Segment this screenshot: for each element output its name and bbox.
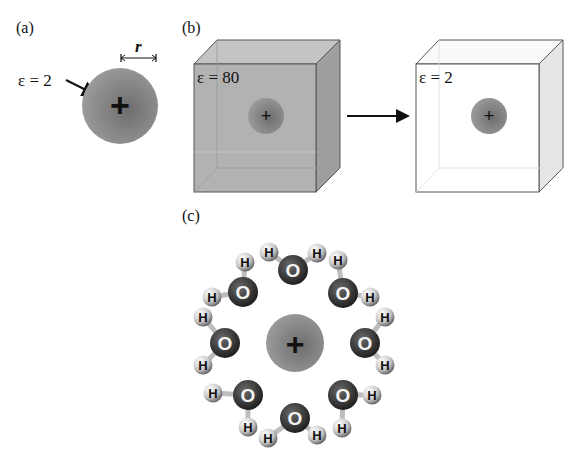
svg-text:H: H bbox=[312, 428, 321, 443]
panel-a-epsilon-label: ε = 2 bbox=[18, 71, 52, 90]
hydrogen-atom-icon: H bbox=[236, 253, 255, 272]
hydrogen-atom-icon: H bbox=[194, 356, 213, 375]
svg-text:H: H bbox=[243, 420, 252, 435]
solvent-box: ε = 80 + bbox=[194, 40, 340, 192]
oxygen-atom-icon: O bbox=[210, 328, 240, 358]
oxygen-atom-icon: O bbox=[278, 255, 308, 285]
hydrogen-atom-icon: H bbox=[376, 308, 395, 327]
panel-c: (c) + H H H H H H H H H H H H bbox=[182, 207, 395, 448]
oxygen-atom-icon: O bbox=[280, 403, 310, 433]
hydrogen-atom-icon: H bbox=[308, 426, 327, 445]
svg-text:O: O bbox=[288, 408, 303, 429]
hydrogen-atom-icon: H bbox=[204, 384, 223, 403]
vacuum-epsilon-label: ε = 2 bbox=[419, 68, 453, 87]
oxygen-atom-icon: O bbox=[228, 277, 258, 307]
svg-text:H: H bbox=[198, 310, 207, 325]
hydrogen-atom-icon: H bbox=[333, 419, 352, 438]
oxygen-atom-icon: O bbox=[350, 328, 380, 358]
hydrogen-atom-icon: H bbox=[361, 288, 380, 307]
hydrogen-atom-icon: H bbox=[203, 288, 222, 307]
panel-a-label: (a) bbox=[16, 19, 34, 37]
central-ion-charge: + bbox=[286, 326, 305, 362]
solvated-ion-charge: + bbox=[261, 106, 272, 126]
oxygen-atom-icon: O bbox=[233, 380, 263, 410]
panel-b-label: (b) bbox=[182, 19, 201, 37]
figure-canvas: (a) ε = 2 r + (b) ε = 80 + bbox=[0, 0, 583, 462]
oxygen-atom-icon: O bbox=[328, 380, 358, 410]
svg-text:H: H bbox=[380, 310, 389, 325]
panel-c-label: (c) bbox=[182, 207, 200, 225]
svg-text:H: H bbox=[207, 290, 216, 305]
svg-text:H: H bbox=[367, 388, 376, 403]
svg-text:H: H bbox=[263, 431, 272, 446]
panel-b: (b) ε = 80 + ε = 2 + bbox=[182, 19, 563, 192]
svg-text:O: O bbox=[358, 333, 373, 354]
vacuum-box: ε = 2 + bbox=[416, 40, 563, 192]
solvent-epsilon-label: ε = 80 bbox=[197, 68, 239, 87]
hydrogen-atom-icon: H bbox=[308, 244, 327, 263]
svg-text:O: O bbox=[241, 385, 256, 406]
svg-text:H: H bbox=[337, 421, 346, 436]
svg-text:H: H bbox=[365, 290, 374, 305]
svg-text:H: H bbox=[264, 245, 273, 260]
svg-text:O: O bbox=[336, 283, 351, 304]
hydrogen-atom-icon: H bbox=[329, 251, 348, 270]
hydrogen-atom-icon: H bbox=[376, 356, 395, 375]
hydrogen-atom-icon: H bbox=[239, 418, 258, 437]
panel-a: (a) ε = 2 r + bbox=[16, 19, 158, 144]
svg-text:H: H bbox=[333, 253, 342, 268]
transfer-arrow-icon bbox=[396, 109, 410, 123]
hydrogen-atom-icon: H bbox=[260, 243, 279, 262]
hydrogen-atom-icon: H bbox=[259, 429, 278, 448]
hydrogen-atom-icon: H bbox=[363, 386, 382, 405]
svg-text:O: O bbox=[236, 282, 251, 303]
svg-text:O: O bbox=[286, 260, 301, 281]
desolvated-ion-charge: + bbox=[484, 106, 495, 126]
svg-text:O: O bbox=[218, 333, 233, 354]
svg-text:H: H bbox=[198, 358, 207, 373]
oxygen-atom-icon: O bbox=[328, 278, 358, 308]
hydrogen-atom-icon: H bbox=[194, 308, 213, 327]
svg-text:O: O bbox=[336, 385, 351, 406]
svg-text:H: H bbox=[240, 255, 249, 270]
svg-text:H: H bbox=[312, 246, 321, 261]
svg-text:H: H bbox=[380, 358, 389, 373]
svg-text:H: H bbox=[208, 386, 217, 401]
ion-charge-label: + bbox=[110, 86, 130, 124]
radius-label: r bbox=[135, 37, 142, 56]
